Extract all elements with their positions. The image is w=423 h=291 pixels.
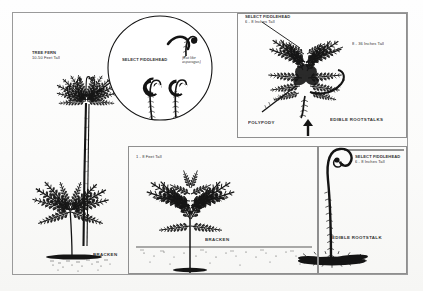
polypody-name-label: POLYPODY (248, 120, 275, 125)
polypody-frond-height-label: 8 - 36 Inches Tall (352, 42, 384, 47)
bracken-name-label: BRACKEN (205, 237, 229, 242)
polypody-rootstalks-label: EDIBLE ROOTSTALKS (330, 117, 383, 122)
tree-fern-height-label: 10-50 Feet Tall (32, 56, 60, 61)
rootstalk-height-label: 6 - 8 Inches Tall (355, 160, 385, 165)
inset-select-fiddlehead-label: SELECT FIDDLEHEAD (122, 57, 167, 62)
rootstalk-name-label: EDIBLE ROOTSTALK (332, 235, 382, 240)
bracken-panel-frame (128, 146, 318, 274)
illustration-page: TREE FERN 10-50 Feet Tall BRACKEN SELECT… (0, 0, 423, 291)
bracken-height-label: 1 - 8 Feet Tall (136, 155, 162, 160)
tree-fern-bracken-label: BRACKEN (93, 252, 117, 257)
inset-asparagus-note: (Eat like asparagus) (182, 56, 201, 65)
rootstalk-panel-frame (318, 146, 407, 274)
polypody-fiddlehead-height-label: 6 - 8 Inches Tall (245, 20, 275, 25)
